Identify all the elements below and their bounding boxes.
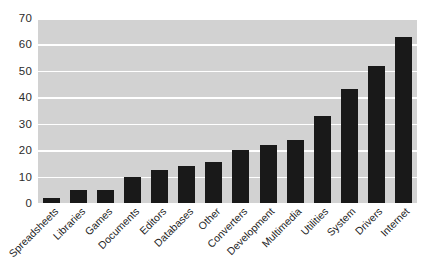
y-tick-label: 50 <box>19 65 32 77</box>
y-tick-label: 10 <box>19 171 32 183</box>
y-tick-label: 30 <box>19 118 32 130</box>
y-tick-label: 20 <box>19 144 32 156</box>
bar <box>395 37 412 204</box>
y-tick-label: 70 <box>19 12 32 24</box>
y-tick-label: 60 <box>19 38 32 50</box>
bar-chart-figure: 010203040506070 SpreadsheetsLibrariesGam… <box>0 0 427 275</box>
y-tick-label: 40 <box>19 91 32 103</box>
x-axis: SpreadsheetsLibrariesGamesDocumentsEdito… <box>38 203 417 275</box>
y-tick-label: 0 <box>25 197 32 209</box>
